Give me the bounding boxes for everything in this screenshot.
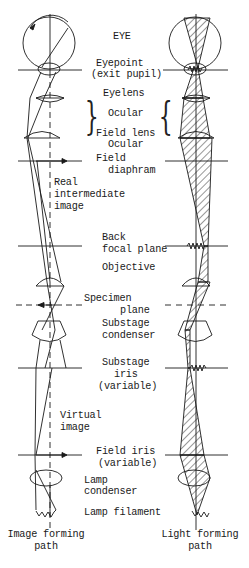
label-objective: Objective <box>102 262 155 274</box>
caption-light-forming-2: path <box>155 541 245 553</box>
left-field-lens <box>24 132 60 139</box>
caption-light-forming-1: Light forming <box>155 529 245 541</box>
label-exit-pupil: (exit pupil) <box>91 69 162 81</box>
label-back-focal-1: Back <box>102 232 126 244</box>
label-ocular-group: Ocular <box>108 108 143 120</box>
image-forming-path <box>16 14 84 530</box>
label-ocular: Ocular <box>108 139 143 151</box>
label-field-lens: Field lens <box>96 128 155 140</box>
label-eye: EYE <box>113 31 131 43</box>
label-lamp-condenser-2: condenser <box>84 486 137 498</box>
right-condenser <box>178 321 212 342</box>
left-lamp-condenser <box>30 470 62 486</box>
label-condenser-1: Substage <box>102 318 149 330</box>
label-substage-iris-2: iris <box>114 369 138 381</box>
right-lamp-filament <box>192 511 209 517</box>
microscope-optical-path-diagram <box>0 0 249 568</box>
label-eyelens: Eyelens <box>103 88 144 100</box>
right-brace-icon: { <box>159 95 173 135</box>
left-condenser <box>32 321 66 342</box>
label-lamp-condenser-1: Lamp <box>84 475 108 487</box>
label-real-image-3: image <box>54 201 84 213</box>
left-lamp-filament <box>36 510 56 517</box>
label-lamp-filament: Lamp filament <box>84 507 161 519</box>
label-field-diaphragm-2: diaphram <box>108 165 155 177</box>
label-field-iris-1: Field iris <box>96 446 155 458</box>
label-substage-iris-3: (variable) <box>98 381 157 393</box>
label-specimen-1: Specimen <box>84 293 131 305</box>
label-virtual-1: Virtual <box>60 410 101 422</box>
caption-image-forming-1: Image forming <box>4 529 88 541</box>
light-forming-path <box>163 14 228 530</box>
label-specimen-2: plane <box>120 305 150 317</box>
label-virtual-2: image <box>60 422 90 434</box>
left-eye-icon <box>23 17 75 69</box>
left-eyelens <box>36 98 64 102</box>
label-eyepoint: Eyepoint <box>96 58 143 70</box>
label-condenser-2: condenser <box>102 330 155 342</box>
label-field-diaphragm-1: Field <box>96 153 126 165</box>
label-real-image-2: intermediate <box>54 189 125 201</box>
label-real-image-1: Real <box>54 177 78 189</box>
label-substage-iris-1: Substage <box>102 357 149 369</box>
label-back-focal-2: focal plane <box>102 244 167 256</box>
label-field-iris-2: (variable) <box>98 458 157 470</box>
caption-image-forming-2: path <box>4 541 88 553</box>
